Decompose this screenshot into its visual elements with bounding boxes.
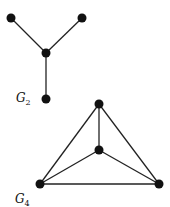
node xyxy=(42,49,51,58)
graph-g4 xyxy=(36,100,164,189)
node xyxy=(78,14,87,23)
graph-g4-label: G4 xyxy=(15,193,30,207)
edge xyxy=(40,150,99,184)
edge xyxy=(46,18,82,53)
edge xyxy=(99,150,159,184)
node xyxy=(36,180,45,189)
node xyxy=(95,146,104,155)
edge xyxy=(11,18,46,53)
node xyxy=(7,14,16,23)
graph-g2-label: G2 xyxy=(16,92,31,107)
node xyxy=(42,95,51,104)
node xyxy=(155,180,164,189)
edge xyxy=(99,104,159,184)
edge xyxy=(40,104,99,184)
node xyxy=(95,100,104,109)
graph-g2 xyxy=(7,14,87,104)
